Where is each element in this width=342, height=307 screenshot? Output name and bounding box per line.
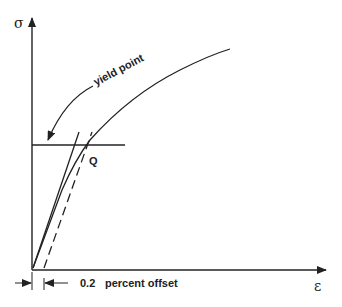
epsilon-label: ε (314, 278, 321, 294)
yield-point-arrow (48, 86, 93, 140)
stress-strain-curve (33, 49, 230, 268)
offset-text-label: percent offset (105, 277, 178, 289)
yield-point-label: yield point (91, 51, 145, 88)
elastic-line (33, 132, 79, 268)
stress-strain-diagram: σ ε yield point Q 0.2 percent offset (0, 0, 342, 307)
sigma-label: σ (14, 15, 24, 31)
offset-value-label: 0.2 (80, 277, 95, 289)
point-q-label: Q (89, 155, 98, 167)
offset-line (44, 132, 92, 268)
